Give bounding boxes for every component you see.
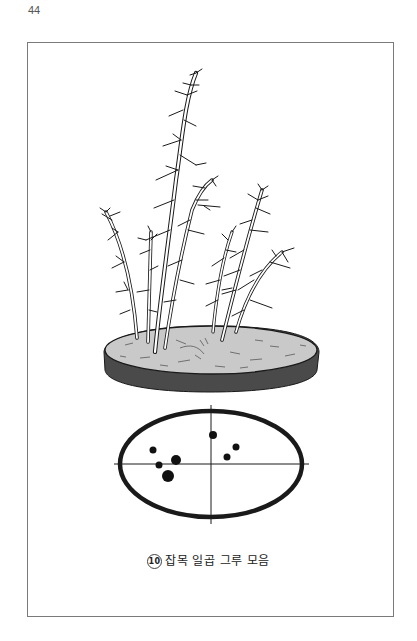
planting-plan-diagram xyxy=(114,405,309,524)
tree-1 xyxy=(100,208,137,338)
tree-position-dot xyxy=(224,454,231,461)
tree-position-dot xyxy=(233,444,240,451)
caption-number: 10 xyxy=(147,554,162,569)
tree-position-dot xyxy=(209,431,217,439)
caption-text: 잡목 일곱 그루 모음 xyxy=(165,554,270,568)
tree-5 xyxy=(206,226,236,332)
tree-position-dot xyxy=(171,455,181,465)
tree-position-dot xyxy=(156,462,163,469)
tree-position-dot xyxy=(162,470,174,482)
trees xyxy=(100,69,294,352)
figure-caption: 10잡목 일곱 그루 모음 xyxy=(0,551,417,569)
tree-2 xyxy=(137,226,158,342)
tree-6 xyxy=(222,184,270,340)
bonsai-illustration xyxy=(0,0,417,641)
tree-position-dot xyxy=(150,447,157,454)
